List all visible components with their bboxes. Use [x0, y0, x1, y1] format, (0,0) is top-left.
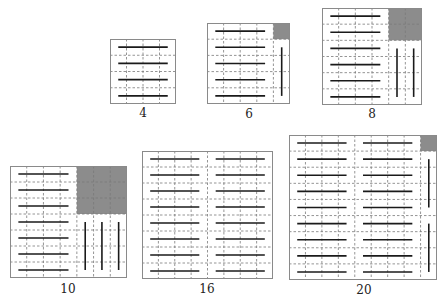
occupied-block — [77, 166, 127, 214]
figure-label: 8 — [368, 108, 376, 120]
figure-label: 6 — [245, 108, 253, 120]
figure-10 — [10, 166, 127, 278]
figure-label: 10 — [60, 283, 75, 295]
figure-8 — [322, 8, 422, 105]
occupied-block — [273, 23, 290, 39]
figure-20 — [289, 135, 437, 280]
figure-6 — [207, 23, 290, 104]
figure-label: 16 — [199, 283, 214, 295]
figure-16 — [142, 151, 273, 279]
occupied-block — [421, 135, 437, 151]
figure-label: 4 — [139, 107, 147, 119]
tiling-diagram — [0, 0, 448, 300]
figure-4 — [110, 39, 176, 104]
figure-label: 20 — [356, 284, 371, 296]
